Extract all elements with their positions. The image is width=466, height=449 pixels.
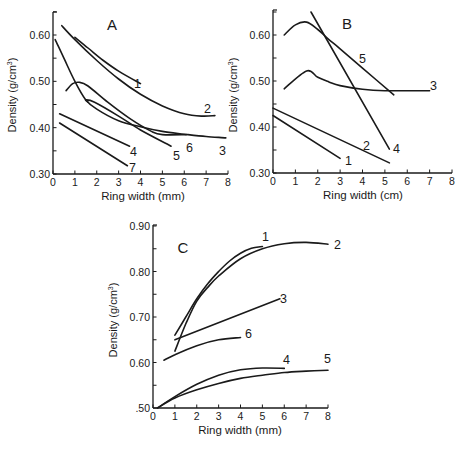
y-tick-label: 0.70	[130, 311, 151, 323]
x-tick-label: 0	[270, 175, 276, 187]
series-curve-5	[86, 100, 172, 146]
y-axis-label: Density (g/cm3)	[107, 283, 119, 358]
series-curve-2	[62, 26, 215, 116]
curve-number-label: 1	[262, 230, 269, 244]
series-curve-5	[157, 370, 328, 408]
x-tick-label: 1	[292, 175, 298, 187]
curve-number-label: 2	[363, 139, 370, 153]
x-tick-label: 4	[138, 176, 144, 188]
panel-a: 0123456780.300.400.500.60Ring width (mm)…	[6, 12, 231, 202]
y-tick-label: 0.80	[130, 266, 151, 278]
y-tick-label: 0.90	[130, 220, 151, 232]
curve-number-label: 3	[219, 144, 226, 158]
y-axis-label: Density (g/cm3)	[227, 58, 239, 133]
x-tick-label: 2	[94, 176, 100, 188]
y-tick-label: 0.60	[30, 29, 51, 41]
y-tick-label: .50	[135, 402, 150, 414]
curve-number-label: 5	[173, 149, 180, 163]
x-tick-label: 8	[449, 175, 455, 187]
y-tick-label: 0.60	[250, 29, 271, 41]
x-tick-label: 6	[281, 410, 287, 422]
x-tick-label: 4	[238, 410, 244, 422]
x-tick-label: 2	[194, 410, 200, 422]
curve-number-label: 3	[280, 292, 287, 306]
x-tick-label: 8	[225, 176, 231, 188]
curve-number-label: 6	[186, 141, 193, 155]
y-axis-label: Density (g/cm3)	[6, 58, 18, 133]
panel-title: B	[342, 15, 352, 32]
y-tick-label: 0.60	[130, 357, 151, 369]
y-tick-label: 0.30	[250, 167, 271, 179]
figure: 0123456780.300.400.500.60Ring width (mm)…	[0, 0, 466, 449]
x-tick-label: 4	[360, 175, 366, 187]
x-tick-label: 5	[382, 175, 388, 187]
y-tick-label: 0.30	[30, 168, 51, 180]
curve-number-label: 2	[204, 102, 211, 116]
panel-b: 0123456780.300.400.500.60Ring width (cm)…	[227, 10, 455, 201]
y-tick-label: 0.40	[30, 122, 51, 134]
curve-number-label: 2	[334, 238, 341, 252]
series-curve-1	[273, 116, 340, 159]
curve-number-label: 7	[129, 161, 136, 175]
curve-number-label: 4	[283, 353, 290, 367]
series-curve-5	[284, 22, 394, 95]
x-tick-label: 2	[315, 175, 321, 187]
curve-number-label: 1	[134, 77, 141, 91]
x-tick-label: 6	[181, 176, 187, 188]
series-curve-3	[175, 299, 280, 340]
x-tick-label: 5	[159, 176, 165, 188]
series-curve-4	[157, 368, 284, 408]
panel-title: A	[107, 16, 117, 33]
panel-title: C	[178, 239, 189, 256]
x-tick-label: 3	[116, 176, 122, 188]
x-tick-label: 0	[150, 410, 156, 422]
x-tick-label: 7	[303, 410, 309, 422]
x-tick-label: 7	[427, 175, 433, 187]
series-curve-3	[284, 71, 429, 91]
series-curve-1	[75, 37, 141, 83]
curve-number-label: 5	[359, 52, 366, 66]
series-curve-2	[273, 108, 389, 163]
chart-figure-svg: 0123456780.300.400.500.60Ring width (mm)…	[0, 0, 466, 449]
x-tick-label: 5	[259, 410, 265, 422]
x-tick-label: 1	[72, 176, 78, 188]
caption-strip	[0, 440, 466, 449]
panel-c: 012345678.500.600.700.800.90Ring width (…	[107, 220, 341, 436]
x-tick-label: 8	[325, 410, 331, 422]
y-tick-label: 0.50	[30, 75, 51, 87]
curve-number-label: 4	[393, 142, 400, 156]
x-tick-label: 1	[172, 410, 178, 422]
x-tick-label: 6	[404, 175, 410, 187]
curve-number-label: 6	[245, 327, 252, 341]
y-tick-label: 0.40	[250, 121, 271, 133]
curve-number-label: 3	[430, 79, 437, 93]
x-tick-label: 3	[337, 175, 343, 187]
x-axis-label: Ring width (mm)	[101, 190, 185, 202]
x-tick-label: 3	[216, 410, 222, 422]
curve-number-label: 5	[324, 352, 331, 366]
curve-number-label: 1	[345, 154, 352, 168]
x-axis-label: Ring width (mm)	[198, 424, 282, 436]
y-tick-label: 0.50	[250, 75, 271, 87]
curve-number-label: 4	[130, 145, 137, 159]
x-axis-label: Ring width (cm)	[323, 189, 403, 201]
x-tick-label: 7	[203, 176, 209, 188]
x-tick-label: 0	[50, 176, 56, 188]
